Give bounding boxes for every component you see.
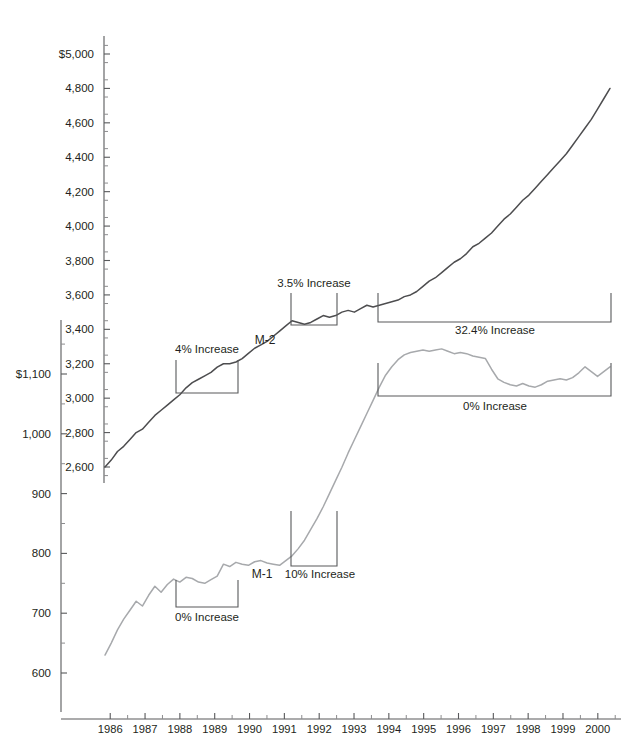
annotation-bracket [176,580,238,607]
x-axis-tick-label: 1996 [446,723,471,735]
inner-axis-tick-label: 3,000 [65,392,94,404]
x-axis-tick-label: 1986 [98,723,123,735]
inner-axis-tick-label: 2,800 [65,427,94,439]
inner-axis-tick-label: 4,000 [65,220,94,232]
inner-axis-tick-label: 4,400 [65,151,94,163]
x-axis-tick-label: 1997 [481,723,506,735]
outer-axis-tick-label: 800 [32,547,51,559]
outer-axis-tick-label: 900 [32,488,51,500]
x-axis-tick-label: 1990 [237,723,262,735]
x-axis-tick-label: 1995 [411,723,436,735]
inner-axis-tick-label: 3,800 [65,255,94,267]
outer-axis-tick-label: 1,000 [22,428,51,440]
annotation-label: 4% Increase [175,343,239,355]
x-axis-tick-label: 1998 [516,723,541,735]
inner-axis-tick-label: 3,600 [65,289,94,301]
x-axis-tick-label: 1991 [272,723,297,735]
outer-axis-tick-label: $1,100 [16,368,51,380]
annotation-bracket [291,511,337,566]
inner-axis-tick-label: 2,600 [65,461,94,473]
x-axis-tick-label: 2000 [585,723,610,735]
annotation-bracket [378,293,611,322]
inner-axis-tick-label: 3,200 [65,358,94,370]
annotation-brackets: 4% Increase3.5% Increase32.4% Increase0%… [175,277,611,623]
x-axis-tick-label: 1993 [342,723,367,735]
series-lines: M-2M-1 [105,88,610,655]
outer-axis-tick-label: 600 [32,667,51,679]
annotation-label: 3.5% Increase [277,277,351,289]
annotation-bracket [378,363,611,396]
x-axis-tick-label: 1992 [307,723,332,735]
series-line-m2 [105,88,610,467]
inner-axis-tick-label: 4,600 [65,117,94,129]
inner-axis-tick-label: 4,800 [65,82,94,94]
annotation-label: 0% Increase [175,611,239,623]
x-axis-tick-label: 1987 [133,723,158,735]
inner-y-axis-m2: $5,0004,8004,6004,4004,2004,0003,8003,60… [59,36,110,483]
outer-axis-tick-label: 700 [32,607,51,619]
series-label-m2: M-2 [255,333,276,347]
x-axis-tick-label: 1989 [202,723,227,735]
x-axis-tick-label: 1988 [167,723,192,735]
x-axis-tick-label: 1994 [376,723,401,735]
annotation-label: 10% Increase [285,568,355,580]
chart-container: $1,1001,000900800700600 $5,0004,8004,600… [0,0,622,746]
series-label-m1: M-1 [252,567,273,581]
annotation-label: 0% Increase [463,400,527,412]
x-axis-years: 1986198719881989199019911992199319941995… [61,713,621,735]
x-axis-tick-label: 1999 [551,723,576,735]
money-supply-line-chart: $1,1001,000900800700600 $5,0004,8004,600… [0,0,622,746]
inner-axis-tick-label: 4,200 [65,186,94,198]
outer-y-axis-m1: $1,1001,000900800700600 [16,320,67,712]
inner-axis-tick-label: 3,400 [65,323,94,335]
inner-axis-tick-label: $5,000 [59,48,94,60]
annotation-label: 32.4% Increase [455,324,535,336]
